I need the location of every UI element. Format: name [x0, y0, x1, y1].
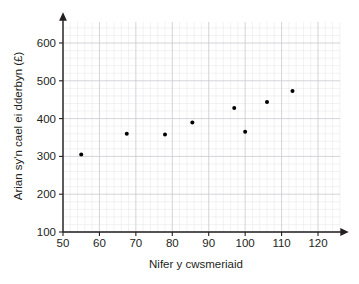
data-point: [190, 120, 194, 124]
data-point: [125, 132, 129, 136]
x-tick-label: 50: [57, 237, 70, 249]
y-tick-label: 200: [37, 188, 56, 200]
data-point: [232, 106, 236, 110]
x-tick-label: 120: [308, 237, 327, 249]
axis-ticks: [59, 43, 318, 236]
x-tick-label: 80: [166, 237, 179, 249]
y-tick-label: 500: [37, 75, 56, 87]
data-point: [291, 89, 295, 93]
y-tick-label: 400: [37, 113, 56, 125]
x-tick-label: 60: [93, 237, 106, 249]
y-tick-label: 300: [37, 150, 56, 162]
minor-gridlines: [63, 22, 340, 232]
y-tick-label: 100: [37, 226, 56, 238]
data-point: [265, 100, 269, 104]
x-tick-label: 100: [236, 237, 255, 249]
x-tick-label: 90: [202, 237, 215, 249]
x-tick-label: 110: [272, 237, 290, 249]
x-tick-label: 70: [129, 237, 142, 249]
data-point: [163, 132, 167, 136]
x-axis-title: Nifer y cwsmeriaid: [149, 258, 243, 270]
y-tick-labels: 100200300400500600: [37, 37, 56, 238]
y-tick-label: 600: [37, 37, 56, 49]
chart-canvas: 5060708090100110120 100200300400500600 N…: [0, 0, 359, 284]
data-point: [79, 153, 83, 157]
data-point: [243, 130, 247, 134]
y-axis-title: Arian sy'n cael ei dderbyn (£): [12, 52, 24, 201]
x-tick-labels: 5060708090100110120: [57, 237, 328, 249]
scatter-chart: 5060708090100110120 100200300400500600 N…: [0, 0, 359, 284]
